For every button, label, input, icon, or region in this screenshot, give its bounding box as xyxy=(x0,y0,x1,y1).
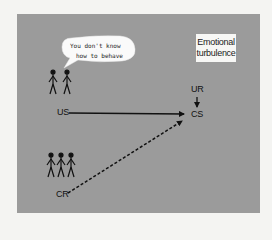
person-icon xyxy=(67,153,75,177)
ur-label: UR xyxy=(191,85,204,94)
person-icon xyxy=(63,70,71,94)
person-icon xyxy=(47,153,55,177)
cr-label: CR xyxy=(56,190,69,199)
cr-to-cs-dashed-arrow xyxy=(68,121,182,193)
us-label: US xyxy=(57,108,69,117)
box-line1: Emotional xyxy=(197,37,234,48)
people-group-two-icon xyxy=(49,70,71,94)
person-icon xyxy=(57,153,65,177)
emotional-turbulence-box: Emotional turbulence xyxy=(196,34,236,62)
cs-label: CS xyxy=(191,110,203,119)
speech-bubble-line1: You don't know xyxy=(70,41,121,50)
person-icon xyxy=(49,70,57,94)
box-line2: turbulence xyxy=(196,48,235,59)
speech-bubble-line2: how to behave xyxy=(76,51,123,60)
us-to-cs-arrow xyxy=(69,113,184,114)
people-group-three-icon xyxy=(47,153,75,177)
